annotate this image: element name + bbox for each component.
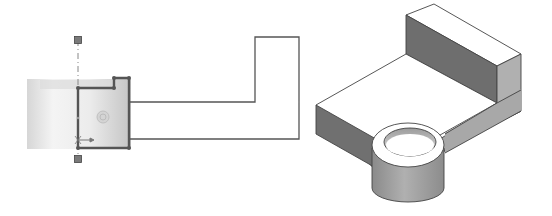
- model-canvas: [300, 0, 552, 216]
- isometric-view: [300, 0, 552, 216]
- extrusion-outline: [129, 37, 299, 139]
- origin-marker-icon: [97, 111, 109, 123]
- bore-hole: [384, 128, 436, 156]
- sketch-view: [0, 0, 305, 216]
- centerline-bottom-handle[interactable]: [75, 156, 82, 163]
- sketch-canvas: [0, 0, 305, 216]
- centerline-top-handle[interactable]: [75, 37, 82, 44]
